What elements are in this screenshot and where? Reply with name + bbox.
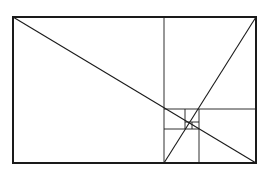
diagonal-line — [164, 17, 256, 163]
diagonal-line — [13, 17, 256, 163]
diagonal-lines — [13, 17, 256, 163]
golden-rectangle-diagram — [0, 0, 266, 179]
